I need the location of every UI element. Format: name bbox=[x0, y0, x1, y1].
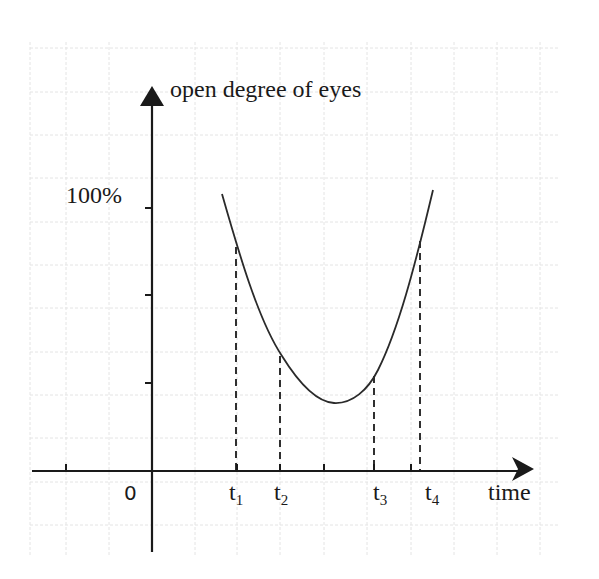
time-marker-lines bbox=[236, 241, 420, 471]
x-axis-title: time bbox=[488, 479, 531, 505]
y-tick-label-100: 100% bbox=[66, 182, 122, 208]
t4-label: t4 bbox=[425, 479, 440, 508]
eye-openness-diagram: open degree of eyes 100% 0 t1 t2 t3 t4 t… bbox=[0, 0, 599, 579]
origin-label: 0 bbox=[124, 481, 137, 505]
t2-label: t2 bbox=[274, 479, 288, 508]
background-grid bbox=[30, 42, 560, 555]
t3-label: t3 bbox=[373, 479, 387, 508]
y-axis-title: open degree of eyes bbox=[170, 76, 361, 102]
y-axis-arrow-icon bbox=[140, 86, 164, 106]
t1-label: t1 bbox=[229, 479, 243, 508]
x-axis-arrow-icon bbox=[512, 457, 534, 481]
